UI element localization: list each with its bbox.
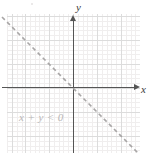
x-axis-label: x bbox=[141, 84, 146, 95]
x-axis bbox=[2, 87, 138, 88]
x-axis-arrowhead-icon bbox=[134, 84, 140, 90]
inequality-annotation: x + y < 0 bbox=[19, 112, 64, 123]
y-axis-arrowhead-icon bbox=[70, 15, 76, 21]
y-axis-label: y bbox=[76, 2, 81, 13]
graph-screenshot: y x x + y < 0 bbox=[0, 0, 147, 153]
y-axis bbox=[73, 18, 74, 153]
image-artifact-speck bbox=[31, 3, 33, 5]
